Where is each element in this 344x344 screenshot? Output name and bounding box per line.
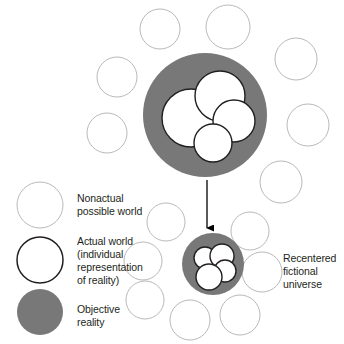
legend-swatch-actual xyxy=(17,237,63,283)
legend-swatch-nonactual xyxy=(17,182,63,228)
nonactual-possible-world xyxy=(170,300,210,340)
nonactual-possible-world xyxy=(242,252,282,292)
legend-swatch-group xyxy=(17,182,63,335)
diagram-vector-layer xyxy=(0,0,344,344)
legend-swatch-objective xyxy=(17,289,63,335)
nonactual-possible-world xyxy=(97,57,137,97)
legend-label-actual: Actual world (individual representation … xyxy=(77,235,143,287)
legend-label-nonactual: Nonactual possible world xyxy=(77,192,142,218)
nonactual-possible-world xyxy=(87,113,127,153)
fictional-actual-world xyxy=(196,264,222,290)
callout-label-recentered-fictional-universe: Recentered fictional universe xyxy=(283,252,336,291)
nonactual-possible-world xyxy=(147,203,185,241)
legend-label-objective: Objective reality xyxy=(77,303,120,329)
nonactual-possible-world xyxy=(140,9,180,49)
nonactual-possible-world xyxy=(220,295,260,335)
nonactual-possible-world xyxy=(287,104,329,146)
diagram-canvas: Nonactual possible world Actual world (i… xyxy=(0,0,344,344)
actual-world xyxy=(194,124,232,162)
nonactual-possible-world xyxy=(275,38,317,80)
nonactual-possible-world xyxy=(260,161,302,203)
nonactual-possible-world xyxy=(206,5,250,49)
